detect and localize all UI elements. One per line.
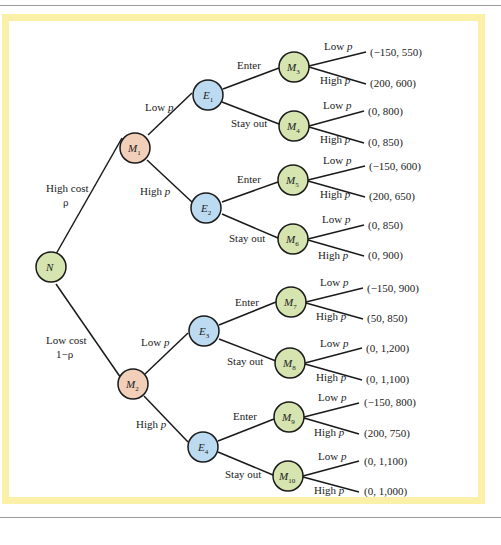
node-M9: M9 xyxy=(274,402,304,432)
payoff-m5-high: (200, 650) xyxy=(369,190,415,203)
m7-low-p-label: Low p xyxy=(320,276,349,288)
e3-stay-out-label: Stay out xyxy=(227,355,263,367)
m8-high-p-label: High p xyxy=(316,371,347,383)
node-E4: E4 xyxy=(188,432,218,462)
m10-high-p-label: High p xyxy=(314,484,345,496)
svg-text:N: N xyxy=(45,261,54,273)
payoff-m3-low: (−150, 550) xyxy=(370,46,422,59)
e4-enter-label: Enter xyxy=(233,410,257,422)
payoff-m6-low: (0, 850) xyxy=(368,219,403,232)
payoff-m8-low: (0, 1,200) xyxy=(366,342,409,355)
low-cost-label: Low cost xyxy=(46,334,87,346)
one-minus-rho-label: 1−ρ xyxy=(56,348,74,360)
m1-high-p-label: High p xyxy=(140,185,171,197)
m9-high-p-label: High p xyxy=(314,426,345,438)
node-M4: M4 xyxy=(279,111,309,141)
m3-low-p-label: Low p xyxy=(324,40,353,52)
m1-low-p-label: Low p xyxy=(145,101,174,113)
e2-stay-out-label: Stay out xyxy=(229,232,265,244)
payoff-m9-high: (200, 750) xyxy=(364,427,410,440)
payoff-m6-high: (0, 900) xyxy=(368,249,403,262)
m4-high-p-label: High p xyxy=(320,133,351,145)
node-M2: M2 xyxy=(118,369,148,399)
m6-low-p-label: Low p xyxy=(322,213,351,225)
m8-low-p-label: Low p xyxy=(320,337,349,349)
payoff-m10-high: (0, 1,000) xyxy=(364,485,407,498)
m2-high-p-label: High p xyxy=(136,418,167,430)
payoff-m4-low: (0, 800) xyxy=(368,105,403,118)
node-E2: E2 xyxy=(191,193,221,223)
e3-enter-label: Enter xyxy=(235,296,259,308)
m6-high-p-label: High p xyxy=(318,249,349,261)
m9-low-p-label: Low p xyxy=(318,391,347,403)
node-M1: M1 xyxy=(120,133,150,163)
e1-enter-label: Enter xyxy=(237,59,261,71)
high-cost-label: High cost xyxy=(46,182,88,194)
node-M8: M8 xyxy=(275,348,305,378)
node-M3: M3 xyxy=(279,52,309,82)
m4-low-p-label: Low p xyxy=(323,99,352,111)
payoff-m4-high: (0, 850) xyxy=(368,136,403,149)
payoff-m5-low: (−150, 600) xyxy=(369,160,421,173)
payoff-m10-low: (0, 1,100) xyxy=(364,455,407,468)
m5-low-p-label: Low p xyxy=(323,154,352,166)
payoff-m9-low: (−150, 800) xyxy=(364,396,416,409)
payoff-m7-low: (−150, 900) xyxy=(367,282,419,295)
m10-low-p-label: Low p xyxy=(318,450,347,462)
node-M5: M5 xyxy=(278,165,308,195)
e4-stay-out-label: Stay out xyxy=(225,468,261,480)
node-E1: E1 xyxy=(193,80,223,110)
payoff-m7-high: (50, 850) xyxy=(367,312,408,325)
payoff-m8-high: (0, 1,100) xyxy=(366,373,409,386)
game-tree: N M1 M2 E1 E2 E3 E4 M3 M4 M5 M6 M7 xyxy=(0,0,501,545)
m7-high-p-label: High p xyxy=(316,310,347,322)
node-N: N xyxy=(36,252,66,282)
e1-stay-out-label: Stay out xyxy=(231,117,267,129)
m5-high-p-label: High p xyxy=(320,188,351,200)
node-M10: M10 xyxy=(273,461,303,491)
m2-low-p-label: Low p xyxy=(141,336,170,348)
payoff-m3-high: (200, 600) xyxy=(370,77,416,90)
node-M6: M6 xyxy=(278,224,308,254)
e2-enter-label: Enter xyxy=(237,173,261,185)
m3-high-p-label: High p xyxy=(320,74,351,86)
rho-label: ρ xyxy=(63,196,69,208)
node-M7: M7 xyxy=(276,287,306,317)
node-E3: E3 xyxy=(189,316,219,346)
